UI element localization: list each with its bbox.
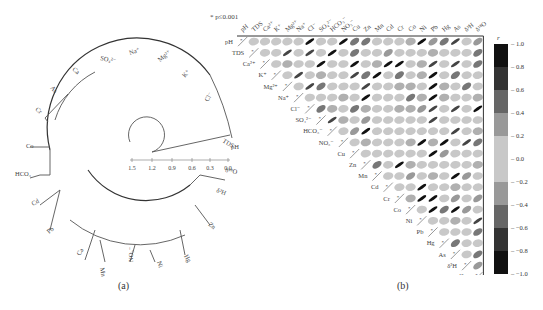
svg-text:Cr: Cr xyxy=(396,23,406,33)
svg-text:Pb: Pb xyxy=(417,228,424,235)
svg-text:K⁺: K⁺ xyxy=(180,68,191,79)
svg-text:Pb: Pb xyxy=(429,23,439,33)
svg-text:pH: pH xyxy=(239,22,250,33)
svg-text:Na⁺: Na⁺ xyxy=(278,94,289,101)
svg-text:*: * xyxy=(475,273,478,275)
svg-text:*: * xyxy=(251,49,254,54)
colorbar xyxy=(494,44,508,274)
colorbar-ticks: – 1.0– 0.8– 0.6– 0.4– 0.2– 0.0– −0.2– −0… xyxy=(511,40,543,276)
svg-text:1.2: 1.2 xyxy=(148,165,156,171)
svg-text:*: * xyxy=(464,262,467,267)
svg-text:NO₃⁻: NO₃⁻ xyxy=(127,247,134,262)
colorbar-tick: – 0.8 xyxy=(511,63,524,70)
colorbar-tick: – 0.6 xyxy=(511,86,524,93)
svg-text:HCO₃: HCO₃ xyxy=(15,170,31,177)
svg-text:SO₄²⁻: SO₄²⁻ xyxy=(295,116,311,123)
svg-text:Mn: Mn xyxy=(358,172,368,179)
svg-text:Hg: Hg xyxy=(183,253,193,264)
svg-text:Co: Co xyxy=(407,23,417,33)
colorbar-tick: – −0.4 xyxy=(511,201,528,208)
svg-text:*: * xyxy=(363,161,366,166)
svg-text:As: As xyxy=(439,251,447,258)
svg-text:*: * xyxy=(296,94,299,99)
svg-text:δ¹⁸O: δ¹⁸O xyxy=(456,273,468,275)
colorbar-tick: – 0.0 xyxy=(511,155,524,162)
svg-text:Na⁺: Na⁺ xyxy=(128,46,141,56)
svg-text:Mn: Mn xyxy=(373,21,385,33)
svg-text:Ni: Ni xyxy=(418,23,428,33)
svg-text:Hg: Hg xyxy=(427,239,436,246)
svg-text:Ni: Ni xyxy=(156,260,165,269)
svg-text:Mn: Mn xyxy=(99,267,108,278)
colorbar-tick: – −0.6 xyxy=(511,224,528,231)
svg-text:Zn: Zn xyxy=(349,161,357,168)
svg-text:Pb: Pb xyxy=(45,225,55,235)
svg-text:*: * xyxy=(430,228,433,233)
svg-text:As: As xyxy=(452,22,462,32)
svg-text:*: * xyxy=(408,206,411,211)
svg-text:*: * xyxy=(262,60,265,65)
svg-text:Cd: Cd xyxy=(371,183,379,190)
svg-text:Co: Co xyxy=(393,206,401,213)
svg-text:*: * xyxy=(240,38,243,43)
svg-text:*: * xyxy=(386,184,389,189)
svg-text:Hg: Hg xyxy=(440,22,451,33)
svg-text:Cd: Cd xyxy=(384,22,395,33)
svg-text:*: * xyxy=(397,195,400,200)
svg-text:*: * xyxy=(285,83,288,88)
svg-text:TDS: TDS xyxy=(232,49,245,56)
colorbar-tick: – 0.2 xyxy=(511,132,524,139)
svg-text:Cl⁻: Cl⁻ xyxy=(306,21,318,33)
svg-text:NO₃⁻: NO₃⁻ xyxy=(319,139,334,146)
svg-text:SO₄²⁻: SO₄²⁻ xyxy=(100,54,117,64)
svg-text:Zn: Zn xyxy=(362,22,373,32)
svg-text:Ca: Ca xyxy=(75,247,85,257)
svg-text:*: * xyxy=(341,139,344,144)
svg-text:*: * xyxy=(374,172,377,177)
colorbar-tick: – 1.0 xyxy=(511,40,524,47)
svg-text:1.5: 1.5 xyxy=(128,165,136,171)
svg-text:*: * xyxy=(318,116,321,121)
colorbar-tick: – −0.8 xyxy=(511,247,528,254)
svg-text:Cr: Cr xyxy=(383,195,390,202)
svg-text:Cl⁻: Cl⁻ xyxy=(291,105,301,112)
svg-text:Cd: Cd xyxy=(30,197,41,207)
colorbar-tick: – 0.4 xyxy=(511,109,524,116)
svg-text:*: * xyxy=(274,72,277,77)
svg-text:*: * xyxy=(330,128,333,133)
panel-a-label: (a) xyxy=(118,280,129,291)
svg-text:*: * xyxy=(307,105,310,110)
svg-text:δ¹⁸O: δ¹⁸O xyxy=(474,20,488,33)
svg-text:δ²H: δ²H xyxy=(447,262,457,269)
colorbar-label: r xyxy=(497,34,500,42)
svg-text:Mg²⁺: Mg²⁺ xyxy=(156,48,172,63)
svg-text:Ca: Ca xyxy=(71,65,81,75)
svg-text:Cu: Cu xyxy=(337,150,345,157)
svg-text:Ni: Ni xyxy=(406,217,413,224)
correlation-matrix: pHpH*TDSTDS*Ca²⁺Ca²⁺*K⁺K⁺*Mg²⁺Mg²⁺*Na⁺Na… xyxy=(195,0,490,275)
svg-text:Cr: Cr xyxy=(34,105,44,115)
svg-text:*: * xyxy=(352,150,355,155)
svg-text:pH: pH xyxy=(225,38,233,45)
svg-text:HCO₃⁻: HCO₃⁻ xyxy=(303,127,322,134)
svg-text:Co: Co xyxy=(26,142,34,149)
colorbar-tick: – −1.0 xyxy=(511,270,528,277)
svg-text:*: * xyxy=(442,240,445,245)
colorbar-tick: – −0.2 xyxy=(511,178,528,185)
svg-text:0.9: 0.9 xyxy=(168,165,176,171)
svg-text:*: * xyxy=(419,217,422,222)
svg-text:*: * xyxy=(453,251,456,256)
svg-text:K⁺: K⁺ xyxy=(258,71,266,78)
svg-text:Mg²⁺: Mg²⁺ xyxy=(263,83,277,90)
panel-b-label: (b) xyxy=(397,280,409,291)
svg-text:Ca²⁺: Ca²⁺ xyxy=(243,60,256,67)
